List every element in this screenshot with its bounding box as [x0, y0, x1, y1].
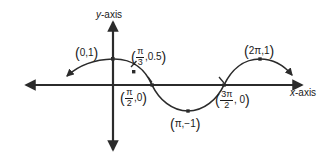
- paren-open: (: [170, 117, 175, 131]
- fraction-pi-over-3: π 3: [136, 47, 144, 67]
- label-point-3pi-over-2: ( 3π 2 , 0): [215, 90, 250, 110]
- paren-open: (: [75, 46, 80, 60]
- fraction-pi-over-2: π 2: [125, 88, 133, 108]
- label-text-0-1: 0,1: [80, 48, 94, 58]
- label-text-pi-min: π,−1: [175, 119, 196, 129]
- point-marker-0-1: [111, 57, 115, 61]
- fraction-numerator: π: [125, 88, 133, 99]
- paren-open: (: [244, 44, 249, 58]
- fraction-denominator: 2: [126, 99, 133, 109]
- plot-svg: [0, 0, 333, 158]
- fraction-numerator: 3π: [220, 90, 233, 101]
- paren-close: ): [142, 91, 147, 105]
- x-axis-label: x-axis: [290, 88, 316, 98]
- paren-close: ): [245, 93, 250, 107]
- leader-line-3pi-over-2: [219, 77, 224, 83]
- label-rest-pi-over-2: ,0: [134, 93, 142, 103]
- label-point-0-1: (0,1): [75, 46, 98, 60]
- y-axis-suffix: -axis: [101, 9, 122, 20]
- point-marker-pi-min: [186, 109, 189, 112]
- paren-close: ): [196, 117, 201, 131]
- label-text-2pi: 2π,1: [249, 46, 270, 56]
- paren-close: ): [269, 44, 274, 58]
- point-marker-pi-over-2: [150, 83, 153, 86]
- fraction-denominator: 2: [223, 101, 230, 111]
- x-axis-suffix: -axis: [295, 87, 316, 98]
- label-rest-pi-over-3: ,0.5: [145, 52, 162, 62]
- point-marker-3pi-over-2: [222, 83, 225, 86]
- paren-open: (: [215, 93, 220, 107]
- cosine-graph-figure: y-axis x-axis (0,1) ( π 3 ,0.5) ( π 2 ,0…: [0, 0, 333, 158]
- label-point-pi-min: (π,−1): [170, 117, 200, 131]
- label-point-pi-over-2: ( π 2 ,0): [120, 88, 147, 108]
- y-axis-label: y-axis: [96, 10, 122, 20]
- paren-close: ): [162, 50, 167, 64]
- fraction-denominator: 3: [137, 58, 144, 68]
- paren-close: ): [94, 46, 99, 60]
- label-rest-3pi-over-2: , 0: [234, 95, 245, 105]
- paren-open: (: [131, 50, 136, 64]
- fraction-3pi-over-2: 3π 2: [220, 90, 233, 110]
- label-point-2pi: (2π,1): [244, 44, 274, 58]
- fraction-numerator: π: [136, 47, 144, 58]
- point-marker-pi-over-3: [132, 70, 135, 73]
- paren-open: (: [120, 91, 125, 105]
- label-point-pi-over-3: ( π 3 ,0.5): [131, 47, 166, 67]
